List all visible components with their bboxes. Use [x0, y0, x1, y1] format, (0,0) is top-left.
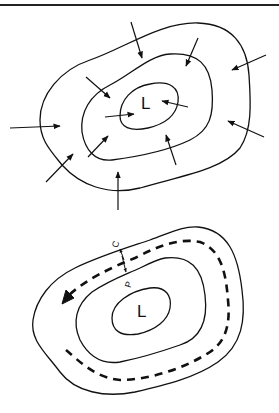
wind-arrow	[162, 101, 188, 107]
wind-arrow	[232, 55, 266, 70]
wind-arrow	[88, 136, 108, 157]
wind-arrow	[131, 22, 142, 58]
diagram-canvas	[0, 0, 279, 413]
wind-arrow	[186, 38, 198, 66]
wind-arrow	[10, 126, 60, 128]
bottom-low-pressure-label: L	[137, 303, 146, 320]
coriolis-force-arrow	[120, 249, 124, 260]
wind-arrow	[166, 135, 176, 165]
top-low-pressure-label: L	[141, 95, 150, 112]
force-arrows	[120, 249, 126, 272]
top-wind-arrows	[10, 22, 266, 210]
wind-arrow	[46, 154, 73, 182]
